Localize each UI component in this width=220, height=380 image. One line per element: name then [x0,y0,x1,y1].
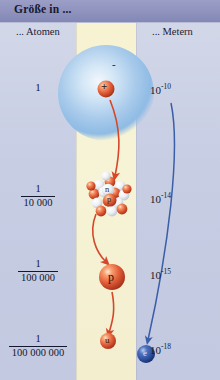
meters-mantissa-0: 10 [150,84,161,96]
meters-exponent-2: -15 [161,267,171,276]
quark-sphere [100,333,116,349]
fraction-denominator-2: 100 000 [18,271,58,284]
atoms-value-0: 1 [35,81,41,93]
scale-meters-row-1: 10-14 [150,191,171,205]
meters-mantissa-3: 10 [150,344,161,356]
scale-meters-row-0: 10-10 [150,82,171,96]
scale-meters-row-2: 10-15 [150,267,171,281]
fraction-denominator-1: 10 000 [21,196,56,209]
quark-zoom-arrow [109,292,114,333]
atom-nucleus-sphere [98,81,115,98]
fraction-numerator-2: 1 [18,258,58,270]
scale-atoms-row-0: 1 [0,81,76,93]
fraction-1: 1 10 000 [21,183,56,209]
fraction-numerator-3: 1 [9,333,68,345]
meters-mantissa-1: 10 [150,193,161,205]
scale-atoms-row-3: 1 100 000 000 [0,333,76,359]
nucleus-cluster [86,171,131,216]
fraction-numerator-1: 1 [21,183,56,195]
scale-of-matter-figure: Größe in ... ... Atomen ... Metern [0,0,220,380]
scale-atoms-row-1: 1 10 000 [0,183,76,209]
proton-zoom-arrow [93,214,106,262]
meters-exponent-1: -14 [161,191,171,200]
scale-atoms-row-2: 1 100 000 [0,258,76,284]
scale-meters-row-3: 10-18 [150,342,171,356]
meters-exponent-3: -18 [161,342,171,351]
meters-mantissa-2: 10 [150,269,161,281]
electron-trace-arrow [148,103,174,340]
fraction-2: 1 100 000 [18,258,58,284]
fraction-denominator-3: 100 000 000 [9,346,68,359]
proton-sphere [99,264,125,290]
fraction-3: 1 100 000 000 [9,333,68,359]
meters-exponent-0: -10 [161,82,171,91]
